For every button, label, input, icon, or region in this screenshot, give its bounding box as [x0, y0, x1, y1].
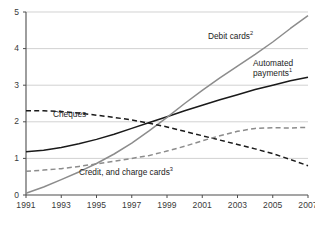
y-axis-label-2: 2	[5, 116, 19, 126]
x-axis-label-2007: 2007	[291, 200, 315, 210]
x-axis-label-2001: 2001	[185, 200, 219, 210]
x-axis-label-1997: 1997	[115, 200, 149, 210]
series-label-credit-charge-cards-text: Credit, and charge cards	[79, 167, 170, 177]
series-label-automated-payments-line2: payments	[253, 68, 289, 78]
gridlines	[26, 12, 308, 158]
series-label-debit-cards: Debit cards2	[208, 32, 253, 42]
series-label-automated-payments-superscript: 1	[289, 67, 292, 73]
series-label-automated-payments: Automated payments1	[253, 59, 293, 78]
x-axis-label-1993: 1993	[44, 200, 78, 210]
y-axis-label-3: 3	[5, 80, 19, 90]
x-axis-label-1991: 1991	[9, 200, 43, 210]
series-label-automated-payments-line1: Automated	[253, 58, 293, 68]
x-axis-label-1999: 1999	[150, 200, 184, 210]
series-label-cheques-text: Cheques	[53, 109, 86, 119]
x-axis-label-2003: 2003	[221, 200, 255, 210]
x-axis-label-1995: 1995	[80, 200, 114, 210]
series-label-debit-cards-superscript: 2	[250, 30, 253, 36]
series-label-debit-cards-text: Debit cards	[208, 31, 250, 41]
y-axis-label-4: 4	[5, 43, 19, 53]
x-axis-label-2005: 2005	[256, 200, 290, 210]
series-label-credit-charge-cards-superscript: 3	[170, 166, 173, 172]
chart-plot-area	[0, 0, 315, 225]
series-label-cheques: Cheques	[53, 110, 86, 120]
series-line-credit-and-charge-cards	[26, 127, 308, 171]
y-axis-label-1: 1	[5, 153, 19, 163]
y-axis-label-5: 5	[5, 7, 19, 17]
series-label-credit-charge-cards: Credit, and charge cards3	[79, 168, 173, 178]
chart-container: 543210 199119931995199719992001200320052…	[0, 0, 315, 225]
y-axis-label-0: 0	[5, 190, 19, 200]
